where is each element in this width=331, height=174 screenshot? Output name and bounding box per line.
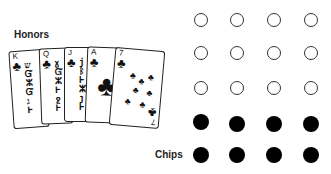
- club-pip-icon: ♣: [124, 97, 131, 106]
- club-pip-icon: ♣: [148, 73, 155, 82]
- club-pip-icon: ♣: [130, 71, 137, 80]
- empty-chip-slot: [194, 46, 208, 60]
- honors-label: Honors: [14, 29, 49, 40]
- club-icon: ♣: [67, 56, 76, 69]
- club-icon: ♣: [42, 57, 51, 70]
- empty-chip-slot: [230, 46, 244, 60]
- empty-chip-slot: [194, 13, 208, 27]
- club-icon: ♣: [117, 56, 127, 70]
- empty-chip-slot: [304, 81, 318, 95]
- card-seven-clubs: 7 ♣ ♣ ♣ ♣ ♣ ♣ ♣ ♣ ♣ 7: [109, 47, 166, 129]
- chip: [193, 147, 209, 163]
- empty-chip-slot: [267, 46, 281, 60]
- chips-label: Chips: [155, 149, 183, 160]
- club-pip-icon: ♣: [146, 89, 153, 98]
- chip: [229, 147, 245, 163]
- chip: [229, 116, 245, 132]
- chip: [193, 114, 209, 130]
- empty-chip-slot: [230, 13, 244, 27]
- empty-chip-slot: [194, 81, 208, 95]
- chip: [266, 116, 282, 132]
- club-icon: ♣: [12, 60, 21, 74]
- empty-chip-slot: [230, 81, 244, 95]
- empty-chip-slot: [304, 46, 318, 60]
- empty-chip-slot: [304, 13, 318, 27]
- empty-chip-slot: [267, 13, 281, 27]
- empty-chip-slot: [267, 81, 281, 95]
- card-rank-bottom: 7: [150, 117, 155, 126]
- chip: [303, 116, 319, 132]
- chip: [266, 147, 282, 163]
- club-pip-icon: ♣: [139, 100, 146, 109]
- club-pip-icon: ♣: [132, 86, 139, 95]
- chip: [303, 147, 319, 163]
- club-icon: ♣: [90, 56, 99, 69]
